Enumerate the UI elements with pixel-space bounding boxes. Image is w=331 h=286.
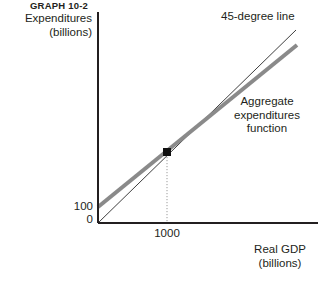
x-axis-tick-label-1000: 1000: [142, 227, 192, 241]
y-axis-title-line2: (billions): [49, 26, 92, 38]
aggregate-label-line3: function: [247, 122, 287, 134]
graph-figure: Expenditures(billions) Real GDP(billions…: [0, 0, 331, 286]
aggregate-label-line1: Aggregate: [240, 95, 293, 107]
x-axis-title: Real GDP(billions): [236, 243, 324, 270]
y-axis-title-line1: Expenditures: [25, 12, 92, 24]
x-axis-title-line1: Real GDP: [254, 243, 306, 255]
series-label-forty-five-degree-line: 45-degree line: [221, 10, 295, 24]
series-label-aggregate-expenditures: Aggregateexpendituresfunction: [219, 95, 315, 136]
x-axis-title-line2: (billions): [259, 257, 302, 269]
y-axis-title: Expenditures(billions): [4, 12, 92, 39]
equilibrium-point-marker: [163, 148, 171, 156]
aggregate-label-line2: expenditures: [234, 109, 300, 121]
y-axis-tick-label-0: 0: [60, 213, 93, 227]
y-axis-tick-label-100: 100: [60, 200, 93, 214]
